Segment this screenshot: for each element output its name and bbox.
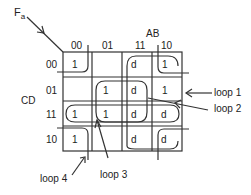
loop-1-label: loop 1 — [214, 88, 241, 98]
cell-r2-c3: d — [161, 110, 167, 120]
cell-r2-c0: 1 — [72, 110, 78, 120]
column-header-11: 11 — [135, 41, 145, 51]
row-header-00: 00 — [46, 60, 57, 70]
column-header-10: 10 — [161, 41, 172, 51]
cell-r3-c3: d — [161, 135, 167, 145]
cell-r0-c3: 1 — [162, 60, 168, 70]
cell-r1-c1: 1 — [103, 86, 109, 96]
loop-4-label: loop 4 — [40, 174, 67, 184]
cell-r2-c1: 1 — [103, 110, 109, 120]
function-pointer-line — [27, 17, 63, 52]
column-header-01: 01 — [102, 41, 113, 51]
loop-2-label: loop 2 — [214, 104, 241, 114]
cell-r0-c2: d — [131, 60, 137, 70]
cell-r3-c0: 1 — [72, 135, 78, 145]
row-header-10: 10 — [46, 135, 57, 145]
row-header-01: 01 — [46, 86, 57, 96]
columns-variable-label: AB — [146, 29, 159, 39]
cell-r1-c3: 1 — [162, 86, 168, 96]
loop-4-arrow-line — [72, 158, 84, 175]
cell-r1-c2: d — [131, 86, 137, 96]
cell-r3-c2: d — [131, 135, 137, 145]
row-header-11: 11 — [46, 110, 56, 120]
loop-3-label: loop 3 — [100, 170, 127, 180]
column-header-00: 00 — [71, 41, 82, 51]
function-label: Fa — [14, 6, 25, 21]
cell-r2-c2: d — [131, 110, 137, 120]
cell-r0-c0: 1 — [72, 60, 78, 70]
rows-variable-label: CD — [21, 96, 35, 106]
